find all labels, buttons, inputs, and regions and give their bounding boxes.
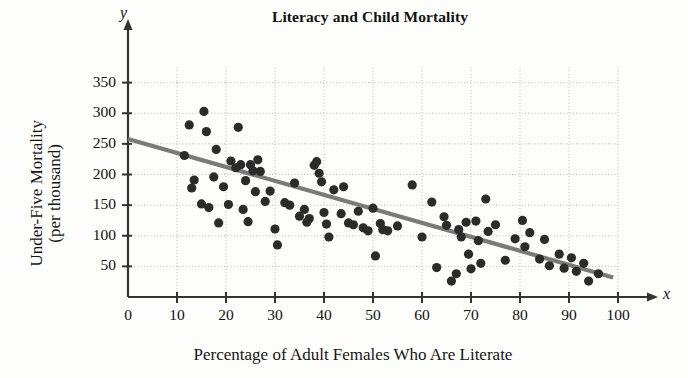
data-point — [354, 207, 363, 216]
data-point — [371, 251, 380, 260]
data-point — [209, 172, 218, 181]
grid-layer — [128, 67, 618, 297]
data-point — [261, 197, 270, 206]
data-point — [408, 180, 417, 189]
data-point — [432, 263, 441, 272]
data-point — [462, 218, 471, 227]
data-point — [457, 232, 466, 241]
data-point — [234, 123, 243, 132]
y-tick-label: 200 — [0, 165, 116, 183]
data-point — [300, 205, 309, 214]
data-point — [285, 201, 294, 210]
data-point — [364, 226, 373, 235]
data-point — [270, 224, 279, 233]
data-point — [290, 178, 299, 187]
data-point — [337, 209, 346, 218]
data-point — [315, 169, 324, 178]
y-tick-label: 250 — [0, 134, 116, 152]
data-point — [567, 253, 576, 262]
data-point — [214, 218, 223, 227]
data-point — [319, 208, 328, 217]
data-point — [368, 204, 377, 213]
data-point — [579, 259, 588, 268]
data-point — [199, 107, 208, 116]
x-tick-label: 100 — [588, 306, 648, 324]
data-point — [518, 216, 527, 225]
tick-marks-layer — [122, 83, 618, 303]
data-point — [471, 216, 480, 225]
data-point — [572, 267, 581, 276]
data-point — [236, 160, 245, 169]
y-tick-label: 350 — [0, 73, 116, 91]
data-point — [312, 157, 321, 166]
data-point — [464, 250, 473, 259]
data-point — [322, 220, 331, 229]
data-point — [349, 220, 358, 229]
data-point — [324, 232, 333, 241]
data-point — [241, 176, 250, 185]
data-point — [185, 120, 194, 129]
data-point — [266, 186, 275, 195]
y-tick-label: 50 — [0, 256, 116, 274]
data-point — [393, 221, 402, 230]
data-point — [239, 205, 248, 214]
data-point — [187, 183, 196, 192]
data-point — [540, 235, 549, 244]
data-point — [202, 127, 211, 136]
y-tick-label: 300 — [0, 103, 116, 121]
data-point — [251, 187, 260, 196]
data-point — [219, 182, 228, 191]
data-point — [427, 197, 436, 206]
data-point — [560, 264, 569, 273]
data-point — [439, 212, 448, 221]
data-point — [510, 234, 519, 243]
data-point — [383, 226, 392, 235]
data-point — [204, 203, 213, 212]
data-points-layer — [180, 107, 603, 286]
data-point — [491, 220, 500, 229]
y-axis-variable-label: y — [120, 4, 127, 22]
data-point — [594, 269, 603, 278]
data-point — [584, 276, 593, 285]
y-tick-label: 100 — [0, 226, 116, 244]
data-point — [501, 256, 510, 265]
data-point — [224, 200, 233, 209]
data-point — [212, 145, 221, 154]
data-point — [273, 240, 282, 249]
data-point — [253, 155, 262, 164]
data-point — [555, 250, 564, 259]
chart-figure: Literacy and Child Mortality Under-Five … — [0, 0, 688, 378]
data-point — [243, 217, 252, 226]
data-point — [535, 254, 544, 263]
data-point — [481, 194, 490, 203]
data-point — [476, 259, 485, 268]
data-point — [545, 261, 554, 270]
data-point — [474, 236, 483, 245]
data-point — [442, 221, 451, 230]
data-point — [317, 177, 326, 186]
x-axis-arrow-icon — [647, 293, 658, 302]
data-point — [520, 242, 529, 251]
data-point — [452, 269, 461, 278]
data-point — [339, 182, 348, 191]
data-point — [180, 151, 189, 160]
data-point — [256, 167, 265, 176]
data-point — [417, 232, 426, 241]
y-tick-label: 150 — [0, 195, 116, 213]
data-point — [190, 175, 199, 184]
data-point — [305, 214, 314, 223]
data-point — [329, 185, 338, 194]
x-axis-variable-label: x — [663, 285, 670, 303]
data-point — [466, 264, 475, 273]
data-point — [525, 228, 534, 237]
data-point — [484, 227, 493, 236]
